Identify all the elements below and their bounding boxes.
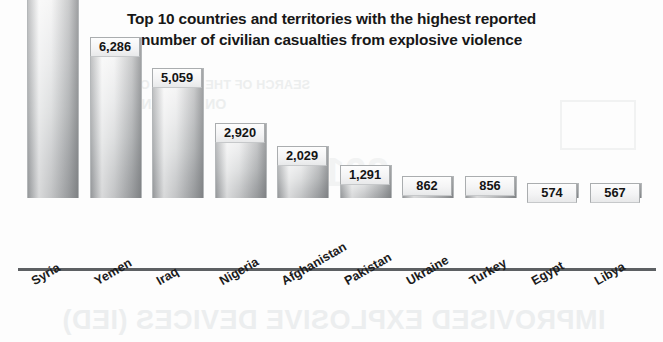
- plot-area: 8,7326,2865,0592,9202,0291,2918628565745…: [0, 0, 663, 272]
- bar-value-label: 1,291: [340, 165, 390, 185]
- bar-yemen: 6,286: [90, 37, 142, 198]
- bar-value-label: 856: [465, 176, 515, 196]
- bar-rect: 6,286: [90, 37, 142, 198]
- bar-egypt: 574: [527, 183, 579, 198]
- bar-libya: 567: [590, 183, 642, 198]
- bar-rect: 862: [402, 176, 454, 198]
- bar-value-label: 574: [527, 183, 577, 203]
- bar-rect: 574: [527, 183, 579, 198]
- bar-value-label: 5,059: [152, 68, 202, 88]
- bar-chart: SEARCH OF THE IMPACT OF ON CIVILIANS 201…: [0, 0, 663, 342]
- bar-value-label: 2,920: [215, 123, 265, 143]
- bar-turkey: 856: [465, 176, 517, 198]
- bar-ukraine: 862: [402, 176, 454, 198]
- bar-value-label: 567: [590, 183, 640, 203]
- bar-rect: 567: [590, 183, 642, 198]
- bar-rect: 2,920: [215, 123, 267, 198]
- bar-pakistan: 1,291: [340, 165, 392, 198]
- bar-syria: 8,732: [27, 0, 79, 198]
- bar-value-label: 862: [402, 176, 452, 196]
- bar-rect: 8,732: [27, 0, 79, 198]
- bar-nigeria: 2,920: [215, 123, 267, 198]
- bar-rect: 856: [465, 176, 517, 198]
- bar-value-label: 6,286: [90, 37, 140, 57]
- bar-afghanistan: 2,029: [277, 146, 329, 198]
- bar-rect: 2,029: [277, 146, 329, 198]
- bar-value-label: 2,029: [277, 146, 327, 166]
- bleed-through-text-bottom: IMPROVISED EXPLOSIVE DEVICES (IED): [62, 305, 606, 336]
- bar-rect: 5,059: [152, 68, 204, 198]
- bar-iraq: 5,059: [152, 68, 204, 198]
- bar-rect: 1,291: [340, 165, 392, 198]
